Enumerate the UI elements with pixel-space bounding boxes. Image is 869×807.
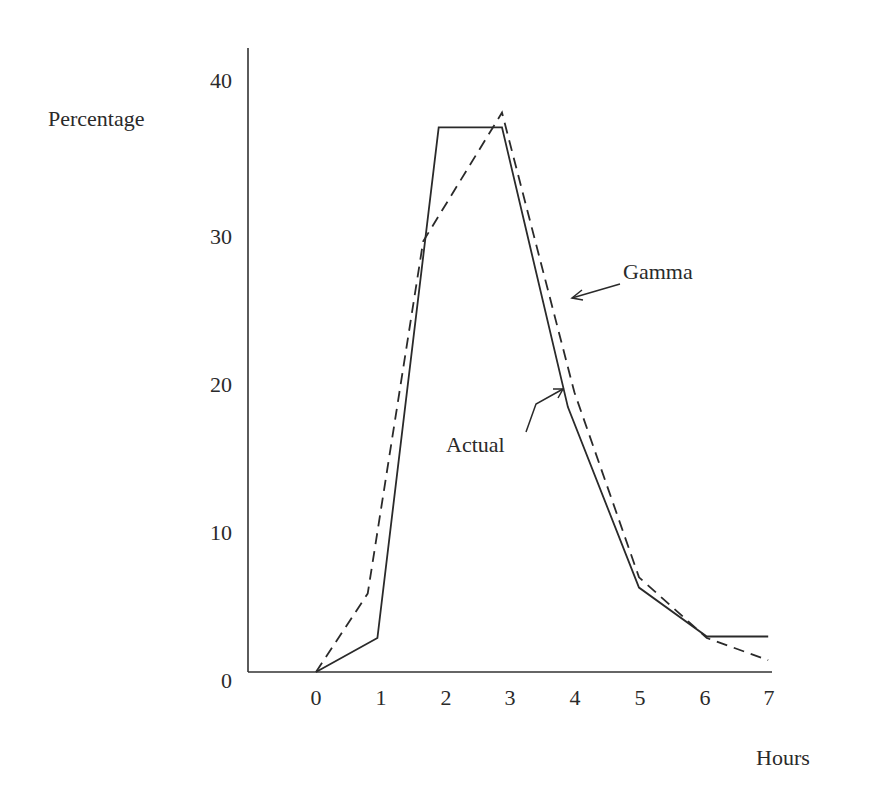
gamma-annotation: Gamma bbox=[572, 259, 693, 300]
gamma-arrow-icon bbox=[572, 284, 620, 298]
y-axis-title: Percentage bbox=[48, 106, 145, 131]
x-tick-labels: 0 1 2 3 4 5 6 7 bbox=[311, 685, 775, 710]
x-tick-label: 0 bbox=[311, 685, 322, 710]
x-tick-label: 2 bbox=[441, 685, 452, 710]
x-tick-label: 6 bbox=[700, 685, 711, 710]
y-tick-label: 0 bbox=[221, 668, 232, 693]
x-axis-title: Hours bbox=[756, 745, 810, 770]
actual-arrow-icon bbox=[526, 389, 563, 432]
x-tick-label: 5 bbox=[635, 685, 646, 710]
x-tick-label: 7 bbox=[764, 685, 775, 710]
y-tick-label: 20 bbox=[210, 372, 232, 397]
actual-annotation: Actual bbox=[446, 389, 563, 457]
x-tick-label: 1 bbox=[376, 685, 387, 710]
actual-label: Actual bbox=[446, 432, 505, 457]
x-tick-label: 4 bbox=[570, 685, 581, 710]
gamma-label: Gamma bbox=[623, 259, 693, 284]
series-actual-line bbox=[316, 127, 768, 672]
y-tick-labels: 0 10 20 30 40 bbox=[210, 68, 232, 693]
x-tick-label: 3 bbox=[505, 685, 516, 710]
y-tick-label: 40 bbox=[210, 68, 232, 93]
line-chart: Percentage 0 10 20 30 40 0 1 2 3 4 5 6 7… bbox=[0, 0, 869, 807]
y-tick-label: 30 bbox=[210, 224, 232, 249]
y-tick-label: 10 bbox=[210, 520, 232, 545]
